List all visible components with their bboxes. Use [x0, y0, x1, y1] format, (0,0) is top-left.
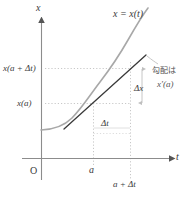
y-tick-label-x-a: x(a) [17, 99, 32, 108]
derivative-diagram-figure: x t O x = x(t) x(a + Δt) x(a) a a + Δt Δ… [0, 0, 190, 197]
axes [22, 22, 170, 180]
curve-label: x = x(t) [113, 9, 143, 19]
origin-label: O [30, 166, 37, 176]
slope-annotation-text: 勾配は [152, 67, 176, 75]
axis-label-t: t [176, 152, 179, 162]
annotation-leader-line [147, 56, 158, 64]
function-curve [41, 8, 148, 130]
delta-x-label: Δx [134, 84, 143, 93]
delta-t-label: Δt [101, 119, 109, 128]
x-tick-label-a: a [89, 165, 94, 175]
x-tick-label-a-plus-delta-t: a + Δt [113, 180, 136, 189]
slope-annotation-value: x′(a) [157, 80, 173, 89]
axis-label-x: x [36, 3, 40, 13]
y-tick-label-x-a-plus-delta-t: x(a + Δt) [3, 64, 36, 73]
